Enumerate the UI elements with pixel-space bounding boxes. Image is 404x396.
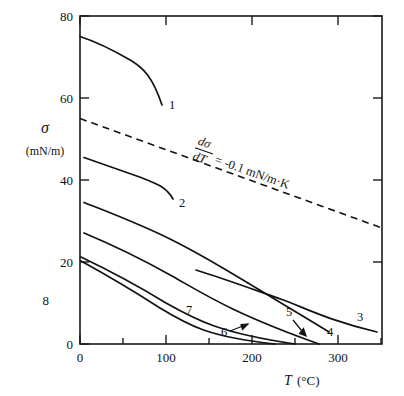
y-axis-title: σ (mN/m) <box>26 119 65 158</box>
curve-label-1: 1 <box>169 98 175 112</box>
reference-dashed-line <box>80 119 382 229</box>
curve-2 <box>84 158 173 200</box>
y-extra-label-8: 8 <box>43 293 50 308</box>
curve-label-7: 7 <box>186 303 192 317</box>
x-axis-var: T <box>284 373 293 388</box>
y-tick-label-0: 0 <box>67 337 74 352</box>
curve-5 <box>84 233 319 344</box>
x-tick-label-0: 0 <box>77 350 84 365</box>
curve-6 <box>81 257 295 344</box>
y-tick-labels: 80 60 40 20 0 8 <box>43 9 74 352</box>
y-tick-label-60: 60 <box>60 91 73 106</box>
x-tick-label-200: 200 <box>242 350 262 365</box>
slope-annotation-value: = -0.1 mN/m·K <box>213 153 291 192</box>
x-tick-label-100: 100 <box>156 350 176 365</box>
curve-label-6: 6 <box>221 325 227 339</box>
x-axis-title: T (°C) <box>284 373 319 388</box>
curve-7 <box>81 261 275 344</box>
curve-1 <box>80 37 162 106</box>
curve-4 <box>84 203 329 333</box>
y-tick-label-80: 80 <box>60 9 73 24</box>
label-5-arrow <box>293 320 306 336</box>
curve-label-3: 3 <box>357 310 363 324</box>
plot-frame <box>80 16 382 344</box>
curve-label-4: 4 <box>327 325 334 339</box>
y-axis-symbol: σ <box>41 119 50 136</box>
x-tick-label-300: 300 <box>328 350 348 365</box>
x-axis-units: (°C) <box>297 373 320 388</box>
y-tick-label-20: 20 <box>60 255 73 270</box>
y-axis-units: (mN/m) <box>26 144 65 158</box>
curve-labels: 1 2 3 4 5 6 7 <box>169 98 363 339</box>
figure-canvas: 80 60 40 20 0 8 0 100 200 300 σ (mN/m) T… <box>0 0 404 396</box>
x-tick-labels: 0 100 200 300 <box>77 350 348 365</box>
x-axis-ticks <box>80 16 381 344</box>
y-axis-ticks <box>80 16 382 344</box>
surface-tension-chart: 80 60 40 20 0 8 0 100 200 300 σ (mN/m) T… <box>0 0 404 396</box>
curve-label-2: 2 <box>179 196 185 210</box>
curve-3 <box>196 270 377 332</box>
label-6-arrow <box>230 324 248 331</box>
y-tick-label-40: 40 <box>60 173 73 188</box>
curve-label-5: 5 <box>286 305 292 319</box>
